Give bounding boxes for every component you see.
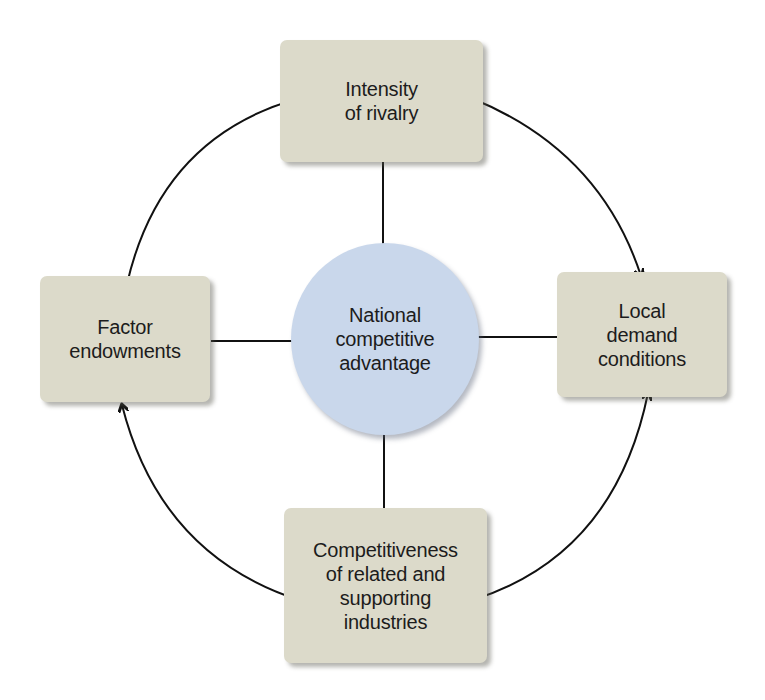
node-factor-endowments: Factor endowments bbox=[40, 276, 210, 402]
node-related-supporting-industries: Competitiveness of related and supportin… bbox=[284, 508, 487, 663]
arrow-top-right-curve bbox=[471, 98, 641, 276]
arrow-right-bottom-curve bbox=[473, 393, 648, 600]
node-label: Local demand conditions bbox=[598, 299, 686, 371]
node-intensity-of-rivalry: Intensity of rivalry bbox=[280, 40, 483, 162]
arrow-left-bottom-curve bbox=[122, 405, 299, 600]
center-label: National competitive advantage bbox=[336, 303, 435, 375]
node-label: Factor endowments bbox=[69, 315, 180, 363]
porter-diamond-diagram: Intensity of rivalry Factor endowments L… bbox=[0, 0, 765, 700]
center-national-competitive-advantage: National competitive advantage bbox=[291, 243, 479, 435]
node-label: Intensity of rivalry bbox=[345, 77, 419, 125]
node-local-demand-conditions: Local demand conditions bbox=[557, 272, 727, 397]
arrow-top-left-curve bbox=[127, 100, 293, 284]
node-label: Competitiveness of related and supportin… bbox=[313, 538, 458, 634]
